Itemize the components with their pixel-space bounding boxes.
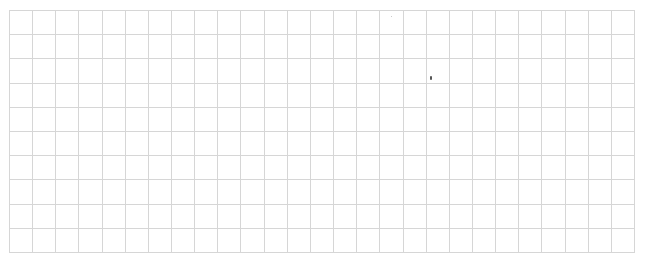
grid-cell <box>288 35 311 59</box>
grid-cell <box>404 11 427 35</box>
grid-cell <box>10 11 33 35</box>
grid-cell <box>195 84 218 108</box>
grid-cell <box>195 229 218 253</box>
grid-cell <box>612 11 635 35</box>
grid-cell <box>241 59 264 83</box>
grid-cell <box>473 35 496 59</box>
grid-cell <box>519 108 542 132</box>
grid-cell <box>79 84 102 108</box>
grid-cell <box>357 59 380 83</box>
grid-cell <box>218 229 241 253</box>
grid-cell <box>334 229 357 253</box>
grid-cell <box>103 205 126 229</box>
grid-cell <box>195 205 218 229</box>
grid-cell <box>126 59 149 83</box>
grid-cell <box>473 205 496 229</box>
grid-cell <box>496 84 519 108</box>
grid-cell <box>149 229 172 253</box>
grid-cell <box>450 132 473 156</box>
grid-cell <box>172 59 195 83</box>
grid-cell <box>334 84 357 108</box>
grid-cell <box>427 132 450 156</box>
grid-cell <box>241 205 264 229</box>
grid-cell <box>427 156 450 180</box>
grid-cell <box>473 108 496 132</box>
grid-cell <box>311 35 334 59</box>
grid-cell <box>542 156 565 180</box>
grid-cell <box>334 180 357 204</box>
grid-cell <box>427 229 450 253</box>
grid-cell <box>450 180 473 204</box>
grid-cell <box>473 59 496 83</box>
grid-cell <box>404 180 427 204</box>
grid-cell <box>218 11 241 35</box>
grid-cell <box>380 180 403 204</box>
grid-cell <box>288 156 311 180</box>
grid-cell <box>33 59 56 83</box>
grid-cell <box>542 59 565 83</box>
grid-cell <box>612 108 635 132</box>
grid-cell <box>10 156 33 180</box>
grid-cell <box>33 84 56 108</box>
grid-cell <box>56 59 79 83</box>
grid-cell <box>126 229 149 253</box>
grid-cell <box>149 84 172 108</box>
grid-cell <box>589 11 612 35</box>
grid-cell <box>450 156 473 180</box>
grid-cell <box>612 156 635 180</box>
grid-cell <box>542 11 565 35</box>
grid-cell <box>241 132 264 156</box>
grid-cell <box>172 229 195 253</box>
grid-cell <box>241 84 264 108</box>
grid-cell <box>103 59 126 83</box>
grid-cell <box>33 229 56 253</box>
grid-cell <box>496 132 519 156</box>
grid-cell <box>79 59 102 83</box>
grid-cell <box>218 156 241 180</box>
grid-cell <box>404 108 427 132</box>
grid-cell <box>33 35 56 59</box>
grid-cell <box>612 35 635 59</box>
grid-cell <box>311 84 334 108</box>
grid-cell <box>103 180 126 204</box>
grid-cell <box>288 229 311 253</box>
grid-cell <box>404 229 427 253</box>
grid-cell <box>288 11 311 35</box>
grid-cell <box>334 35 357 59</box>
grid-cell <box>589 35 612 59</box>
grid-cell <box>79 108 102 132</box>
grid-cell <box>566 11 589 35</box>
grid-cell <box>589 229 612 253</box>
grid-cell <box>612 229 635 253</box>
grid-cell <box>288 132 311 156</box>
grid-cell <box>519 132 542 156</box>
grid-cell <box>218 35 241 59</box>
grid-cell <box>195 59 218 83</box>
grid-cell <box>172 205 195 229</box>
blank-grid-paper <box>9 10 635 253</box>
grid-cell <box>334 11 357 35</box>
grid-cell <box>612 180 635 204</box>
grid-cell <box>427 84 450 108</box>
grid-cell <box>241 156 264 180</box>
grid-cell <box>33 205 56 229</box>
grid-cell <box>380 205 403 229</box>
grid-cell <box>566 84 589 108</box>
grid-cell <box>126 84 149 108</box>
grid-cell <box>519 229 542 253</box>
grid-cell <box>126 35 149 59</box>
grid-cell <box>10 132 33 156</box>
grid-cell <box>103 132 126 156</box>
grid-cell <box>288 59 311 83</box>
grid-cell <box>334 59 357 83</box>
grid-cell <box>404 84 427 108</box>
grid-cell <box>172 132 195 156</box>
grid-cell <box>10 180 33 204</box>
grid-cell <box>357 35 380 59</box>
grid-cell <box>566 180 589 204</box>
grid-cell <box>195 35 218 59</box>
grid-cell <box>519 205 542 229</box>
grid-cell <box>496 108 519 132</box>
grid-cell <box>404 156 427 180</box>
grid-cell <box>612 132 635 156</box>
